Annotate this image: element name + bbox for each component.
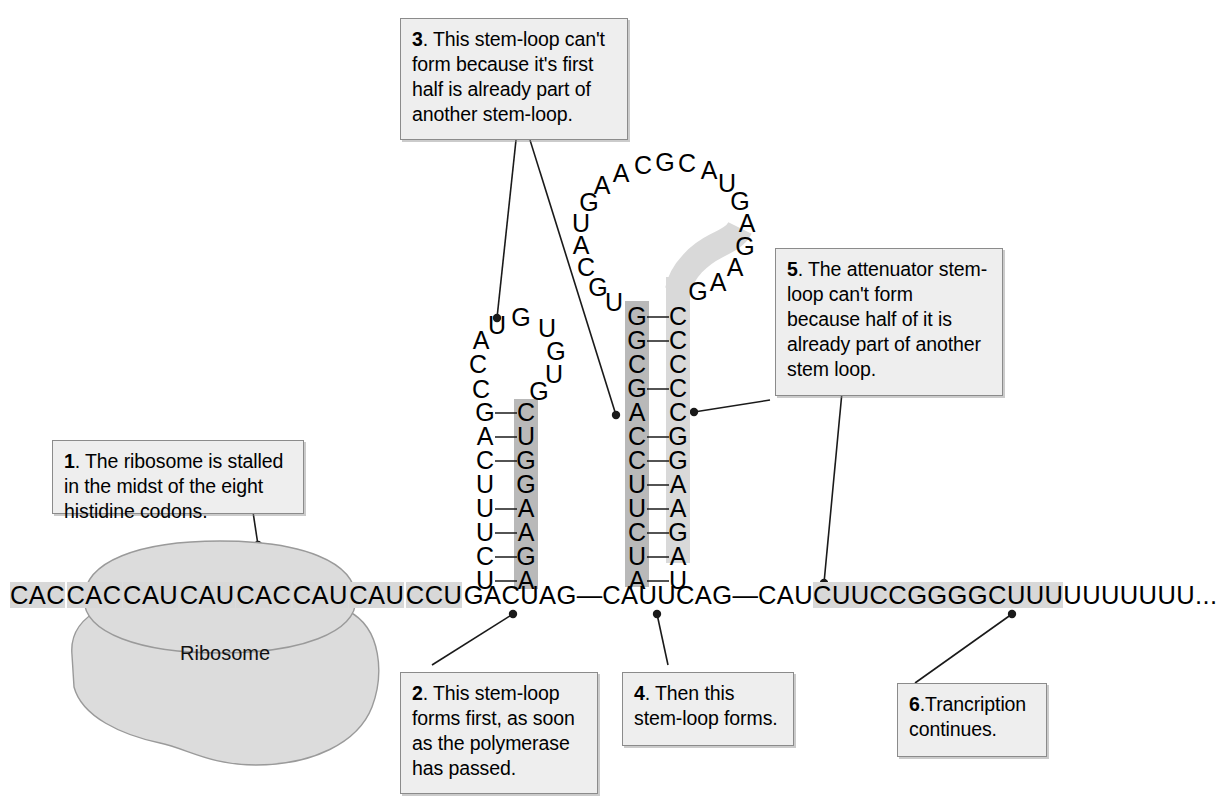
base-bigloop-10: G [654,150,676,175]
mrna-dash-1: — [577,582,603,608]
poly-u-tail: UUUUUUU [1063,582,1195,608]
callout-1-number: 1 [64,450,75,472]
base-bigloop-08: A [610,161,632,186]
mrna-ellipsis: ... [1195,582,1217,608]
his-codon-7: CAU [349,582,404,608]
mrna-dash-2: — [733,582,759,608]
mrna-segment-2: CAUUCAG [602,582,732,608]
attenuator-sequence: CUUCCGGGGCUUU [813,582,1063,608]
his-codon-6: CAU [293,582,348,608]
callout-3[interactable]: 3. This stem-loop can't form because it'… [400,18,628,140]
his-codon-2: CAC [67,582,122,608]
mrna-segment-3: CAU [758,582,813,608]
callout-1[interactable]: 1. The ribosome is stalled in the midst … [52,440,304,514]
his-codon-4: CAU [180,582,235,608]
callout-5-number: 5 [787,258,798,280]
mrna-sequence: CACCACCAUCAUCACCAUCAUCCUGACUAG—CAUUCAG—C… [10,582,1218,608]
base-bigloop-11: C [676,151,698,176]
base-bigloop-18: A [707,270,729,295]
base-bigloop-09: C [632,153,654,178]
callout-3-text: . This stem-loop can't form because it's… [412,28,605,125]
callout-5[interactable]: 5. The attenuator stem-loop can't form b… [775,248,1003,396]
callout-2-text: . This stem-loop forms first, as soon as… [412,682,575,779]
callout-2[interactable]: 2. This stem-loop forms first, as soon a… [400,672,598,794]
his-codon-1: CAC [10,582,65,608]
his-codon-3: CAU [123,582,178,608]
callout-5-text: . The attenuator stem-loop can't form be… [787,258,987,380]
callout-6-text: .Trancription continues. [909,693,1026,740]
callout-2-number: 2 [412,682,423,704]
mrna-after-codons: GACUAG [464,582,577,608]
callout-4-number: 4 [634,682,645,704]
callout-6-number: 6 [909,693,920,715]
callout-6[interactable]: 6.Trancription continues. [897,683,1047,757]
callout-1-text: . The ribosome is stalled in the midst o… [64,450,283,522]
callout-4-text: . Then this stem-loop forms. [634,682,778,729]
his-codon-8: CCU [406,582,462,608]
callout-4[interactable]: 4. Then this stem-loop forms. [622,672,794,746]
base-bigloop-19: G [687,279,709,304]
callout-3-number: 3 [412,28,423,50]
his-codon-5: CAC [236,582,291,608]
